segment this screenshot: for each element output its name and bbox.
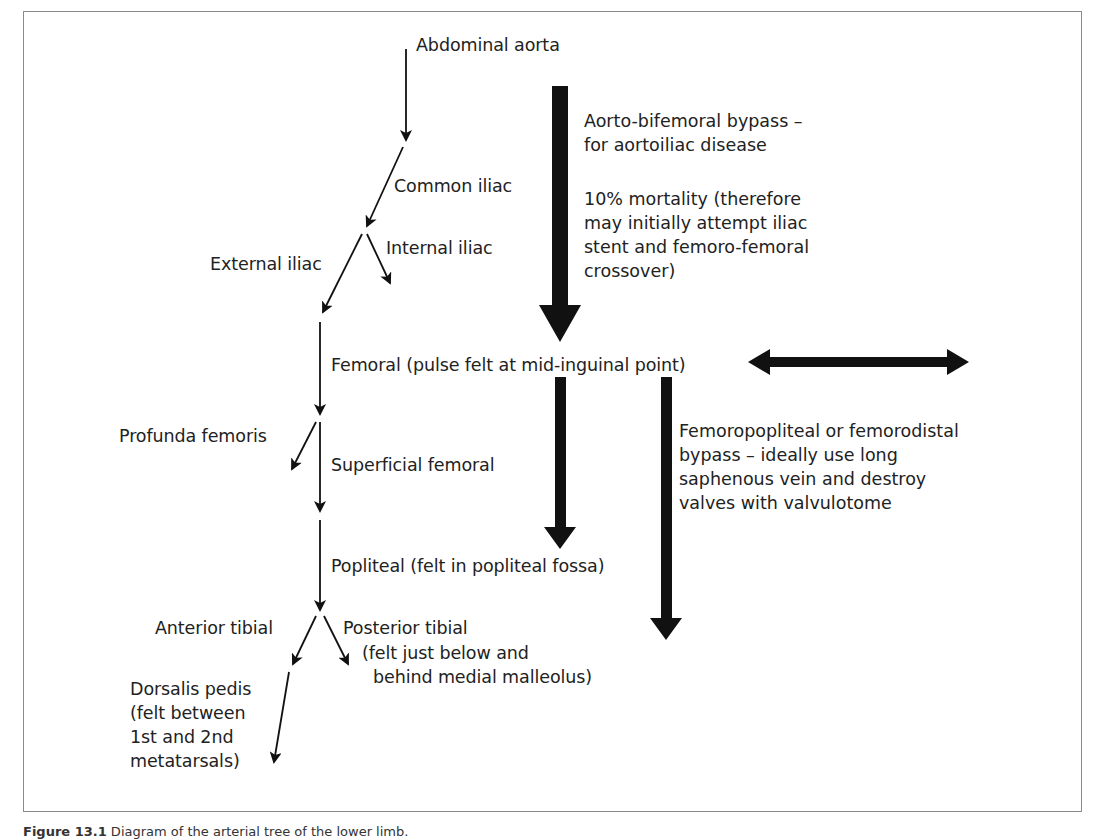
label-superficial-femoral: Superficial femoral bbox=[331, 454, 495, 476]
arrow-dorsalis-pedis bbox=[274, 672, 289, 762]
label-posterior-tibial-note-2: behind medial malleolus) bbox=[373, 666, 592, 688]
label-abdominal-aorta: Abdominal aorta bbox=[416, 34, 560, 56]
note-aorto-bifemoral-1: Aorto-bifemoral bypass – bbox=[584, 110, 803, 132]
arrow-anterior-tibial bbox=[293, 616, 316, 664]
arrow-femoral-to-popliteal-bypass bbox=[544, 377, 576, 549]
note-aorto-bifemoral-2: for aortoiliac disease bbox=[584, 134, 767, 156]
label-common-iliac: Common iliac bbox=[394, 175, 512, 197]
note-fempop-2: bypass – ideally use long bbox=[679, 444, 898, 466]
note-mortality-2: may initially attempt iliac bbox=[584, 212, 807, 234]
label-dorsalis-pedis-note-3: metatarsals) bbox=[130, 750, 240, 772]
label-dorsalis-pedis: Dorsalis pedis bbox=[130, 678, 251, 700]
arrow-profunda-femoris bbox=[292, 422, 316, 469]
label-internal-iliac: Internal iliac bbox=[386, 237, 493, 259]
note-mortality-4: crossover) bbox=[584, 260, 675, 282]
label-dorsalis-pedis-note-2: 1st and 2nd bbox=[130, 726, 233, 748]
label-dorsalis-pedis-note-1: (felt between bbox=[130, 702, 245, 724]
caption-text: Diagram of the arterial tree of the lowe… bbox=[107, 824, 409, 839]
label-popliteal: Popliteal (felt in popliteal fossa) bbox=[331, 555, 604, 577]
note-fempop-1: Femoropopliteal or femorodistal bbox=[679, 420, 959, 442]
label-posterior-tibial: Posterior tibial bbox=[343, 617, 468, 639]
arrow-external-iliac bbox=[323, 234, 362, 312]
note-fempop-4: valves with valvulotome bbox=[679, 492, 892, 514]
arrow-femorodistal-bypass bbox=[650, 377, 682, 640]
arrow-femoro-femoral-crossover bbox=[748, 349, 969, 375]
note-mortality-1: 10% mortality (therefore bbox=[584, 188, 801, 210]
label-posterior-tibial-note-1: (felt just below and bbox=[362, 642, 529, 664]
label-profunda-femoris: Profunda femoris bbox=[119, 425, 267, 447]
figure-caption: Figure 13.1 Diagram of the arterial tree… bbox=[23, 824, 408, 839]
caption-label: Figure 13.1 bbox=[23, 824, 107, 839]
label-femoral: Femoral (pulse felt at mid-inguinal poin… bbox=[331, 354, 686, 376]
note-mortality-3: stent and femoro-femoral bbox=[584, 236, 809, 258]
note-fempop-3: saphenous vein and destroy bbox=[679, 468, 926, 490]
label-external-iliac: External iliac bbox=[210, 253, 322, 275]
arrow-aorto-bifemoral-bypass bbox=[539, 86, 581, 342]
label-anterior-tibial: Anterior tibial bbox=[155, 617, 273, 639]
